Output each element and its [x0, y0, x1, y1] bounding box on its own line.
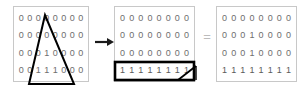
- matrix-cell: 0: [136, 13, 145, 23]
- matrix-cell: 0: [257, 48, 266, 58]
- matrix-cell: 0: [26, 65, 35, 75]
- matrix-cell: 0: [136, 48, 145, 58]
- matrix-cell: 0: [173, 30, 182, 40]
- matrix-cell: 1: [284, 65, 293, 75]
- matrix-cell: 1: [43, 48, 52, 58]
- matrix-cell: 0: [284, 30, 293, 40]
- matrix-cell: 0: [229, 13, 238, 23]
- matrix-cell: 0: [17, 65, 26, 75]
- matrix-cell: 1: [136, 65, 145, 75]
- table-row: 0 0 0 0 0 0 0 0: [118, 27, 191, 45]
- matrix-cell: 1: [145, 65, 154, 75]
- matrix-cell: 0: [182, 48, 191, 58]
- matrix-cell: 1: [155, 65, 164, 75]
- matrix-cell: 0: [247, 13, 256, 23]
- matrix-cell: 0: [118, 30, 127, 40]
- matrix-cell: 0: [77, 13, 86, 23]
- matrix-cell: 1: [118, 65, 127, 75]
- matrix-cell: 1: [220, 65, 229, 75]
- right-arrow-icon: [95, 38, 114, 46]
- matrix-cell: 0: [136, 30, 145, 40]
- matrix-cell: 1: [51, 65, 60, 75]
- matrix-cell: 0: [155, 30, 164, 40]
- matrix-cell: 0: [77, 30, 86, 40]
- matrix-cell: 0: [43, 30, 52, 40]
- matrix-cell: 0: [77, 65, 86, 75]
- matrix-source-grid: 0 0 0 0 0 0 0 0 0 0 0 0 0 0 0 0 0 0: [14, 7, 88, 81]
- matrix-cell: 0: [266, 48, 275, 58]
- matrix-cell: 1: [34, 65, 43, 75]
- matrix-result-panel: 0 0 0 0 0 0 0 0 0 0 0 1 0 0 0 0 0 0: [216, 6, 297, 82]
- matrix-cell: 0: [26, 48, 35, 58]
- matrix-cell: 0: [60, 65, 69, 75]
- matrix-cell: 0: [118, 13, 127, 23]
- matrix-cell: 0: [34, 30, 43, 40]
- matrix-source-panel: 0 0 0 0 0 0 0 0 0 0 0 0 0 0 0 0 0 0: [13, 6, 89, 82]
- table-row: 1 1 1 1 1 1 1 1: [220, 62, 293, 80]
- table-row: 0 0 0 0 0 0 0 0: [118, 44, 191, 62]
- matrix-cell: 0: [68, 13, 77, 23]
- matrix-cell: 0: [145, 30, 154, 40]
- matrix-cell: 1: [43, 65, 52, 75]
- table-row: 0 0 0 0 0 0 0 0: [220, 9, 293, 27]
- matrix-cell: 0: [17, 13, 26, 23]
- matrix-cell: 1: [275, 65, 284, 75]
- matrix-cell: 0: [68, 30, 77, 40]
- matrix-cell: 0: [182, 13, 191, 23]
- matrix-cell: 0: [60, 48, 69, 58]
- matrix-cell: 0: [275, 30, 284, 40]
- matrix-cell: 0: [26, 13, 35, 23]
- matrix-cell: 0: [220, 30, 229, 40]
- table-row: 0 0 0 1 0 0 0 0: [220, 44, 293, 62]
- matrix-cell: 0: [26, 30, 35, 40]
- matrix-cell: 0: [68, 65, 77, 75]
- matrix-cell: 0: [266, 13, 275, 23]
- matrix-intermediate-grid: 0 0 0 0 0 0 0 0 0 0 0 0 0 0 0 0 0 0: [115, 7, 194, 81]
- matrix-cell: 1: [127, 65, 136, 75]
- table-row: 1 1 1 1 1 1 1 1: [118, 62, 191, 80]
- matrix-intermediate-panel: 0 0 0 0 0 0 0 0 0 0 0 0 0 0 0 0 0 0: [114, 6, 195, 82]
- table-row: 0 0 0 1 0 0 0 0: [17, 44, 85, 62]
- matrix-cell: 0: [43, 13, 52, 23]
- matrix-cell: 0: [60, 13, 69, 23]
- matrix-cell: 1: [238, 65, 247, 75]
- matrix-cell: 0: [238, 48, 247, 58]
- matrix-cell: 0: [145, 13, 154, 23]
- matrix-cell: 0: [164, 30, 173, 40]
- matrix-cell: 1: [266, 65, 275, 75]
- matrix-cell: 0: [164, 13, 173, 23]
- matrix-cell: 0: [284, 48, 293, 58]
- table-row: 0 0 0 1 0 0 0 0: [220, 27, 293, 45]
- matrix-cell: 0: [238, 30, 247, 40]
- matrix-cell: 0: [284, 13, 293, 23]
- matrix-cell: 0: [155, 13, 164, 23]
- matrix-cell: 0: [68, 48, 77, 58]
- matrix-cell: 1: [229, 65, 238, 75]
- matrix-cell: 0: [173, 48, 182, 58]
- figure-root: 0 0 0 0 0 0 0 0 0 0 0 0 0 0 0 0 0 0: [0, 0, 302, 87]
- equals-sign: =: [200, 30, 214, 44]
- matrix-cell: 0: [127, 48, 136, 58]
- table-row: 0 0 0 0 0 0 0 0: [118, 9, 191, 27]
- matrix-cell: 0: [182, 30, 191, 40]
- matrix-cell: 0: [257, 30, 266, 40]
- matrix-result-grid: 0 0 0 0 0 0 0 0 0 0 0 1 0 0 0 0 0 0: [217, 7, 296, 81]
- matrix-cell: 1: [173, 65, 182, 75]
- matrix-cell: 0: [34, 48, 43, 58]
- table-row: 0 0 1 1 1 0 0 0: [17, 62, 85, 80]
- matrix-cell: 0: [173, 13, 182, 23]
- matrix-cell: 0: [229, 48, 238, 58]
- matrix-cell: 0: [164, 48, 173, 58]
- matrix-cell: 1: [247, 65, 256, 75]
- matrix-cell: 1: [257, 65, 266, 75]
- matrix-cell: 1: [182, 65, 191, 75]
- matrix-cell: 0: [275, 13, 284, 23]
- matrix-cell: 0: [51, 48, 60, 58]
- matrix-cell: 0: [51, 13, 60, 23]
- matrix-cell: 0: [220, 13, 229, 23]
- matrix-cell: 0: [17, 30, 26, 40]
- matrix-cell: 0: [145, 48, 154, 58]
- matrix-cell: 0: [17, 48, 26, 58]
- matrix-cell: 0: [51, 30, 60, 40]
- matrix-cell: 1: [247, 48, 256, 58]
